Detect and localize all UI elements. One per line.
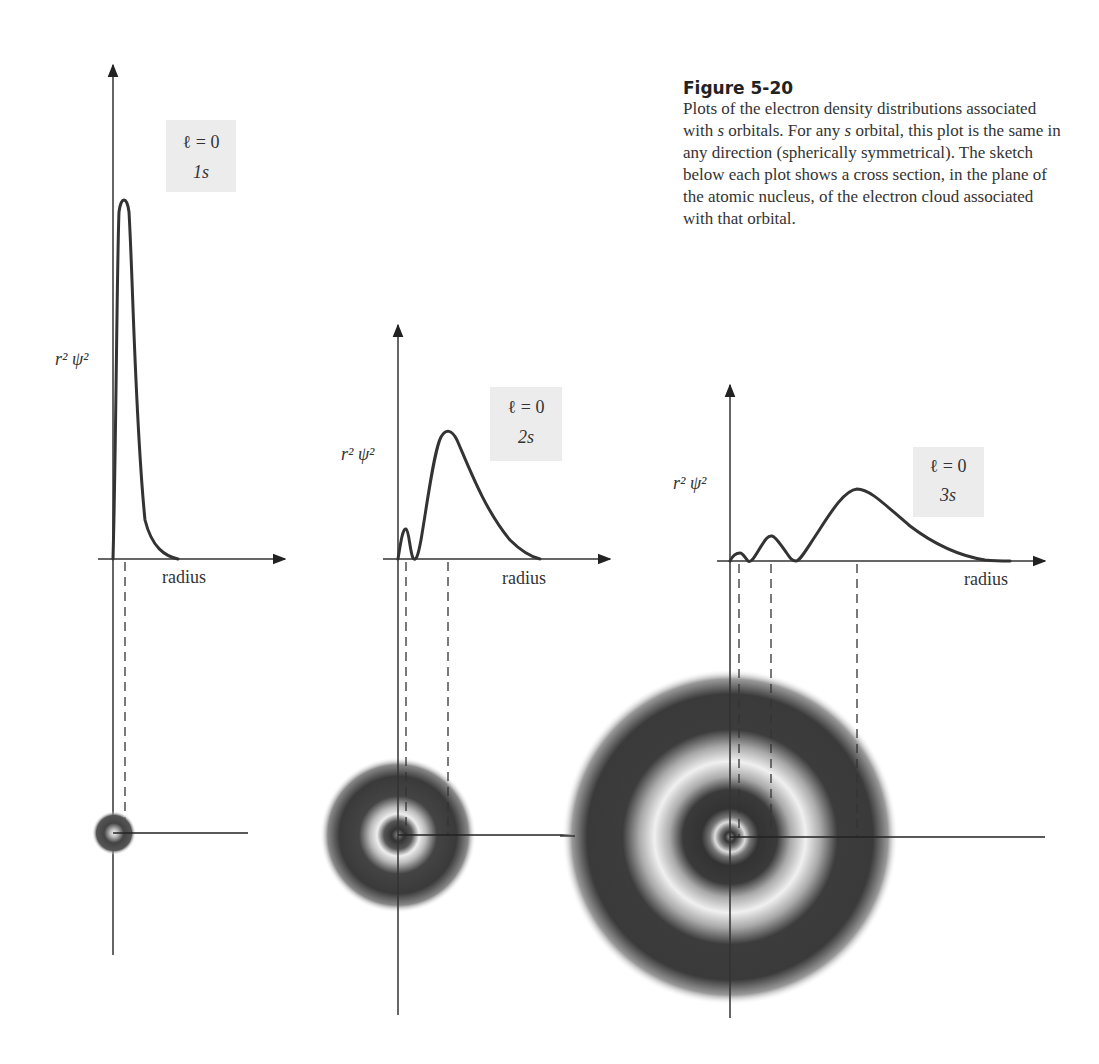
plot-1s: ℓ = 0 1s r² ψ² radius bbox=[55, 65, 285, 955]
y-label-3s: r² ψ² bbox=[673, 473, 707, 493]
orbital-label-2s: 2s bbox=[518, 427, 534, 447]
plot-3s: ℓ = 0 3s r² ψ² radius bbox=[560, 385, 1045, 1018]
x-label-1s: radius bbox=[162, 567, 206, 587]
x-label-2s: radius bbox=[502, 568, 546, 588]
x-label-3s: radius bbox=[964, 569, 1008, 589]
l-label-3s: ℓ = 0 bbox=[930, 456, 967, 476]
curve-1s bbox=[113, 200, 178, 559]
l-label-1s: ℓ = 0 bbox=[183, 132, 220, 152]
orbital-label-3s: 3s bbox=[939, 485, 956, 505]
orbital-label-1s: 1s bbox=[193, 162, 209, 182]
y-label-2s: r² ψ² bbox=[341, 444, 375, 464]
plot-2s: ℓ = 0 2s r² ψ² radius bbox=[320, 325, 610, 1015]
y-label-1s: r² ψ² bbox=[55, 349, 89, 369]
orbital-figure: ℓ = 0 1s r² ψ² radius ℓ = 0 2s r² ψ² rad… bbox=[0, 0, 1099, 1064]
l-label-2s: ℓ = 0 bbox=[508, 397, 545, 417]
